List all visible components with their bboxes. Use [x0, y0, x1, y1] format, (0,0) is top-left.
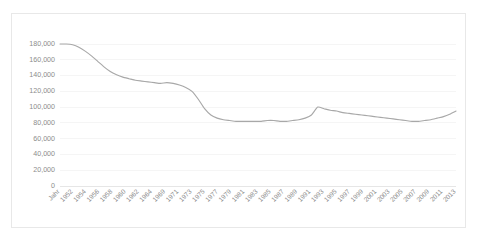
x-axis-tick-label: 1969: [151, 188, 167, 204]
x-axis-tick-label: 1960: [111, 188, 127, 204]
y-axis-tick-label: 80,000: [33, 119, 55, 127]
x-axis-tick-label: 1985: [257, 188, 273, 204]
x-axis-tick-label: 1993: [309, 188, 325, 204]
x-axis-tick-label: 2001: [362, 188, 378, 204]
x-axis-tick-label: 1989: [283, 188, 299, 204]
x-axis-tick-label: 1987: [270, 188, 286, 204]
x-axis-tick-label: 2011: [429, 188, 444, 203]
gridlines-group: [60, 44, 456, 186]
x-axis-tick-label: 1997: [336, 188, 352, 204]
x-axis-tick-label: 2003: [375, 188, 391, 204]
chart-plot-svg: 020,00040,00060,00080,000100,000120,0001…: [12, 14, 467, 229]
x-axis-tick-label: 2013: [441, 188, 457, 204]
x-axis-tick-label: 2007: [402, 188, 418, 204]
x-axis-tick-label: 1958: [98, 188, 114, 204]
data-series-group: [60, 44, 456, 121]
x-axis-tick-labels: Jahr195219541956195819601962196419691971…: [47, 187, 457, 203]
x-axis-tick-label: 1991: [296, 188, 312, 204]
y-axis-tick-label: 120,000: [29, 87, 55, 95]
y-axis-tick-labels: 020,00040,00060,00080,000100,000120,0001…: [29, 40, 55, 190]
x-axis-tick-label: 1999: [349, 188, 365, 204]
x-axis-tick-label: 2005: [389, 188, 405, 204]
series-line-path: [60, 44, 456, 121]
x-axis-tick-label: 1977: [204, 188, 220, 204]
x-axis-tick-label: 1981: [230, 188, 246, 204]
x-axis-tick-label: 2009: [415, 188, 431, 204]
x-axis-tick-label: 1971: [164, 188, 180, 204]
y-axis-tick-label: 160,000: [29, 56, 55, 64]
x-axis-tick-label: 1995: [323, 188, 339, 204]
y-axis-tick-label: 60,000: [33, 135, 55, 143]
y-axis-tick-label: 40,000: [33, 150, 55, 158]
y-axis-tick-label: 180,000: [29, 40, 55, 48]
x-axis-tick-label: 1983: [243, 188, 259, 204]
line-chart-figure: 020,00040,00060,00080,000100,000120,0001…: [11, 13, 466, 228]
x-axis-tick-label: 1973: [177, 188, 193, 204]
y-axis-tick-label: 140,000: [29, 71, 55, 79]
x-axis-tick-label: 1956: [85, 188, 101, 204]
x-axis-tick-label: 1954: [72, 188, 88, 204]
y-axis-tick-label: 20,000: [33, 166, 55, 174]
x-axis-tick-label: 1952: [59, 188, 75, 204]
x-axis-tick-label: 1975: [191, 188, 207, 204]
x-axis-tick-label: 1979: [217, 188, 233, 204]
x-axis-tick-label: 1964: [138, 188, 154, 204]
x-axis-tick-label: 1962: [125, 188, 141, 204]
y-axis-tick-label: 100,000: [29, 103, 55, 111]
